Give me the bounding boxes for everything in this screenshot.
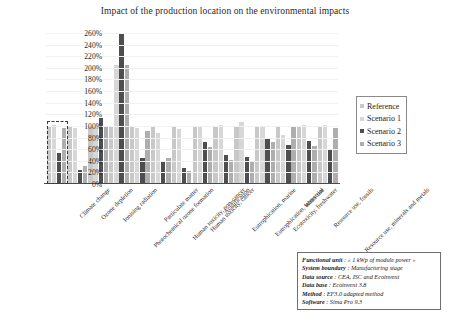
legend-item[interactable]: Scenario 2 [360,125,401,138]
methodology-note-value: CEA, ISC and Ecoinvent [338,273,399,280]
bar [47,126,51,184]
methodology-note-row: Method : EF3.0 adapted method [302,290,436,298]
methodology-note-key: Software [302,298,325,305]
bar [198,127,202,184]
y-axis-tick-label: 260% [62,29,102,38]
y-axis-tick-label: 160% [62,87,102,96]
methodology-note-value: Manufacturing stage [351,264,403,271]
y-axis-tick-label: 220% [62,52,102,61]
y-axis-tick-label: 140% [62,98,102,107]
y-axis-tick-label: 40% [62,156,102,165]
methodology-note-key: Functional unit [302,256,342,263]
bar [52,125,56,184]
bar [260,127,264,184]
bar [318,126,322,184]
legend-item-label: Scenario 3 [367,139,401,148]
legend-item[interactable]: Reference [360,100,401,113]
y-axis-tick-label: 240% [62,40,102,49]
legend-item[interactable]: Scenario 3 [360,138,401,151]
bar [286,145,290,184]
x-axis-tick-label: Resource use, minerals and metals [363,186,430,253]
y-axis-tick-label: 20% [62,168,102,177]
chart-title: Impact of the production location on the… [0,6,450,16]
legend-item-label: Scenario 1 [367,114,401,123]
bar [234,126,238,184]
methodology-note-value: « 1 kWp of module power » [348,256,416,263]
methodology-note-key: Data base [302,281,327,288]
y-axis-tick-label: 200% [62,63,102,72]
bar [302,125,306,184]
bar [328,149,332,184]
bar [109,126,113,184]
bar [182,168,186,184]
bar [255,126,259,184]
bar [151,126,155,184]
methodology-note-box: Functional unit : « 1 kWp of module powe… [297,252,441,310]
bar [213,126,217,184]
bar [312,146,316,184]
bar [166,158,170,184]
methodology-note-value: EF3.0 adapted method [327,290,384,297]
methodology-note-key: System boundary [302,264,346,271]
bar [323,125,327,184]
bar [114,65,118,184]
bar [125,65,129,184]
bar [239,122,243,184]
chart-container: Impact of the production location on the… [0,0,450,324]
methodology-note-key: Data source [302,273,333,280]
chart-legend: ReferenceScenario 1Scenario 2Scenario 3 [356,96,407,154]
methodology-note-row: Data source : CEA, ISC and Ecoinvent [302,273,436,281]
bar [193,126,197,184]
bar [307,141,311,184]
methodology-note-row: System boundary : Manufacturing stage [302,264,436,272]
y-axis-tick-label: 180% [62,75,102,84]
bar [208,147,212,184]
methodology-note-key: Method [302,290,322,297]
bar [135,128,139,184]
y-axis-tick-label: 0% [62,180,102,189]
bar [297,126,301,184]
bar [145,131,149,184]
legend-swatch-icon [360,142,364,146]
bar [172,126,176,184]
legend-swatch-icon [360,129,364,133]
legend-swatch-icon [360,104,364,108]
legend-item-label: Reference [367,102,399,111]
bar [219,125,223,184]
x-axis-tick-label: Resource use, fossils [332,186,375,229]
y-axis-tick-label: 100% [62,121,102,130]
y-axis-tick-label: 120% [62,110,102,119]
bar [140,158,144,184]
y-axis-tick-label: 80% [62,133,102,142]
methodology-note-value: Ecoinvent 3.8 [332,281,366,288]
legend-item-label: Scenario 2 [367,127,401,136]
legend-swatch-icon [360,117,364,121]
bar [156,133,160,184]
y-axis-tick-label: 60% [62,145,102,154]
legend-item[interactable]: Scenario 1 [360,113,401,126]
bar [224,155,228,184]
bar [104,127,108,184]
methodology-note-row: Functional unit : « 1 kWp of module powe… [302,256,436,264]
bar [130,126,134,184]
methodology-note-row: Software : Sima Pro 9.3 [302,298,436,306]
methodology-note-row: Data base : Ecoinvent 3.8 [302,281,436,289]
bar [291,127,295,184]
methodology-note-value: Sima Pro 9.3 [330,298,362,305]
bar [57,153,61,184]
bar [281,135,285,184]
x-axis-labels: Climate changeOzone depletionIonising ra… [46,186,338,248]
bar [276,126,280,184]
